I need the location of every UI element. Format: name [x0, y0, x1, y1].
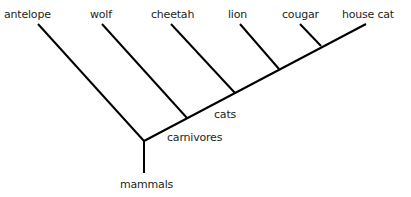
taxon-antelope: antelope: [4, 8, 51, 21]
taxon-cheetah: cheetah: [151, 8, 194, 21]
branch-wolf: [102, 24, 187, 118]
branch-antelope: [38, 24, 144, 141]
cladogram-lines: [0, 0, 411, 197]
branch-cheetah: [171, 24, 235, 93]
branch-lion: [240, 24, 279, 69]
clade-cats: cats: [214, 108, 236, 121]
taxon-lion: lion: [228, 8, 247, 21]
taxon-wolf: wolf: [90, 8, 112, 21]
clade-carnivores: carnivores: [167, 131, 222, 144]
branch-cougar: [300, 24, 321, 46]
clade-mammals: mammals: [120, 178, 173, 191]
taxon-cougar: cougar: [282, 8, 319, 21]
taxon-house-cat: house cat: [342, 8, 394, 21]
